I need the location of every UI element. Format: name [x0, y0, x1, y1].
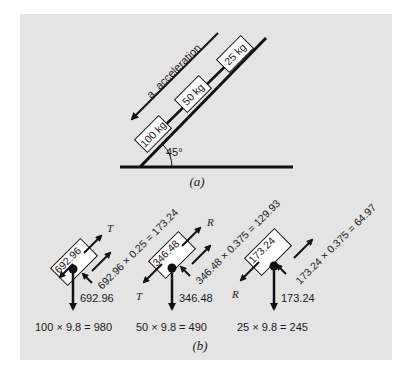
incline-line [140, 38, 266, 167]
tension-up-label: T [107, 222, 114, 234]
mass-box-25kg: 25 kg [217, 36, 254, 73]
part-a: 45° a, acceleration 100 kg 50 kg 25 kg (… [120, 33, 293, 189]
weight-label: 25 × 9.8 = 245 [237, 321, 308, 333]
tension-down-label: R [231, 288, 239, 300]
tension-up-label: R [206, 216, 214, 228]
caption-b: (b) [192, 338, 207, 353]
tension-down-label: T [136, 290, 143, 302]
caption-a: (a) [189, 174, 204, 189]
weight-label: 100 × 9.8 = 980 [35, 321, 112, 333]
tension-arrow-down [144, 264, 162, 282]
angle-label: 45° [166, 146, 183, 158]
tension-arrow-up [182, 228, 200, 246]
normal-label: 692.96 [80, 292, 114, 304]
friction-label: 173.24 × 0.375 = 64.97 [293, 201, 378, 286]
tension-arrow-down [241, 262, 259, 280]
normal-arrow [181, 267, 190, 276]
normal-label: 346.48 [179, 292, 213, 304]
normal-arrow [83, 274, 92, 283]
friction-arrow [294, 240, 312, 258]
weight-label: 50 × 9.8 = 490 [136, 321, 207, 333]
normal-label: 173.24 [281, 292, 315, 304]
mass-box-50kg: 50 kg [175, 76, 212, 113]
diagram-canvas: 45° a, acceleration 100 kg 50 kg 25 kg (… [0, 0, 410, 375]
